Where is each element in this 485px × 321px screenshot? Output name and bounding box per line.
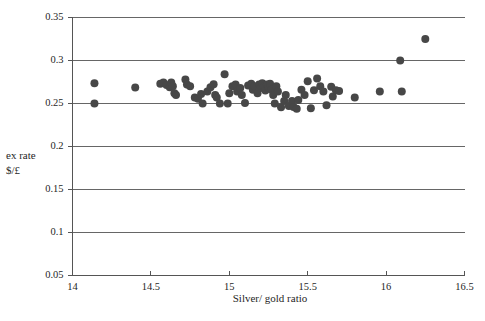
x-axis-label: Silver/ gold ratio xyxy=(150,292,390,304)
plot-area xyxy=(0,0,485,321)
data-point xyxy=(421,35,429,43)
y-axis-label-line-2: $/£ xyxy=(6,163,68,178)
y-tick-label-0.05: 0.05 xyxy=(24,270,64,281)
data-point xyxy=(199,100,207,108)
data-point xyxy=(396,57,404,65)
data-point xyxy=(294,96,302,104)
y-tick-label-0.3: 0.3 xyxy=(24,55,64,66)
data-point xyxy=(172,91,180,99)
data-point xyxy=(90,79,98,87)
data-point xyxy=(210,80,218,88)
data-point xyxy=(313,75,321,83)
x-tick-label-15.5: 15.5 xyxy=(286,282,330,293)
data-point xyxy=(301,91,309,99)
x-tick-label-15: 15 xyxy=(207,282,251,293)
data-point xyxy=(216,100,224,108)
data-point xyxy=(221,70,229,78)
data-point xyxy=(335,87,343,95)
data-point xyxy=(274,87,282,95)
data-point xyxy=(307,104,315,112)
y-axis-label-line-1: ex rate xyxy=(6,148,68,163)
gridlines xyxy=(73,18,465,233)
data-point xyxy=(238,91,246,99)
data-point xyxy=(241,99,249,107)
data-point xyxy=(376,87,384,95)
data-point xyxy=(304,77,312,85)
scatter-chart-figure: 0.350.30.250.20.150.10.05 1414.51515.516… xyxy=(0,0,485,321)
data-point xyxy=(293,105,301,113)
x-tick-label-16: 16 xyxy=(364,282,408,293)
y-tick-label-0.35: 0.35 xyxy=(24,12,64,23)
data-point xyxy=(236,84,244,92)
data-point xyxy=(319,87,327,95)
x-tick-label-14.5: 14.5 xyxy=(129,282,173,293)
data-point xyxy=(186,82,194,90)
data-point xyxy=(323,101,331,109)
y-tick-label-0.1: 0.1 xyxy=(24,227,64,238)
x-tick-label-14: 14 xyxy=(51,282,95,293)
data-point xyxy=(169,82,177,90)
y-tick-label-0.25: 0.25 xyxy=(24,98,64,109)
x-tick-label-16.5: 16.5 xyxy=(443,282,485,293)
data-point xyxy=(90,100,98,108)
data-points xyxy=(90,35,429,113)
data-point xyxy=(131,84,139,92)
data-point xyxy=(282,91,290,99)
y-axis-label: ex rate $/£ xyxy=(6,148,68,178)
data-point xyxy=(351,93,359,101)
data-point xyxy=(225,89,233,97)
data-point xyxy=(224,100,232,108)
data-point xyxy=(398,87,406,95)
y-tick-label-0.15: 0.15 xyxy=(24,184,64,195)
